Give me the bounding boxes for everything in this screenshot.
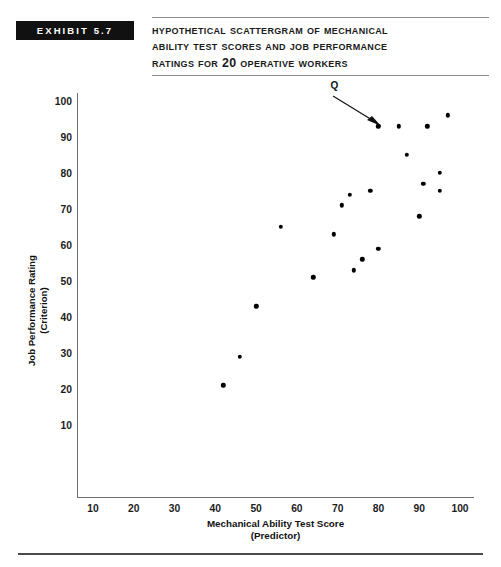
data-point: [417, 214, 421, 218]
footer-rule: [18, 553, 483, 555]
data-point: [331, 232, 335, 236]
x-tick-label: 70: [321, 503, 355, 514]
data-point: [352, 268, 356, 272]
x-tick-label: 20: [117, 503, 151, 514]
x-axis-label-sub: (Predictor): [251, 530, 301, 541]
y-axis-label-sub: (Criterion): [38, 287, 49, 333]
x-tick-label: 60: [280, 503, 314, 514]
data-point: [368, 189, 372, 193]
data-point: [254, 304, 258, 308]
x-axis-line: [77, 497, 474, 498]
data-point: [311, 275, 315, 279]
data-point: [437, 189, 441, 193]
x-tick-label: 80: [361, 503, 395, 514]
y-tick-label: 10: [46, 420, 72, 431]
y-tick-label: 80: [46, 168, 72, 179]
data-point: [421, 182, 425, 186]
data-point: [278, 225, 282, 229]
y-tick-label: 20: [46, 384, 72, 395]
y-tick-label: 90: [46, 132, 72, 143]
data-point: [360, 257, 364, 261]
exhibit-page: EXHIBIT 5.7 Hypothetical Scattergram of …: [0, 0, 501, 567]
data-point: [405, 153, 409, 157]
data-point: [425, 124, 429, 128]
x-tick-label: 10: [76, 503, 110, 514]
y-tick-label: 50: [46, 276, 72, 287]
data-point: [376, 246, 380, 250]
y-tick-label: 30: [46, 348, 72, 359]
y-axis-label-main: Job Performance Rating: [26, 255, 37, 366]
data-point: [446, 113, 450, 117]
y-axis-line: [77, 93, 78, 498]
x-axis-label: Mechanical Ability Test Score (Predictor…: [77, 518, 474, 542]
data-point: [238, 354, 242, 358]
y-tick-label: 70: [46, 204, 72, 215]
x-tick-label: 90: [402, 503, 436, 514]
y-tick-label: 100: [46, 96, 72, 107]
data-point: [348, 192, 352, 196]
x-tick-label: 50: [239, 503, 273, 514]
annotation-arrow-icon: [329, 92, 393, 132]
x-axis-label-main: Mechanical Ability Test Score: [207, 518, 344, 529]
scatter-plot: 102030405060708090100 102030405060708090…: [0, 0, 501, 567]
y-axis-label: Job Performance Rating (Criterion): [26, 226, 49, 396]
x-tick-label: 40: [198, 503, 232, 514]
data-point: [437, 171, 441, 175]
data-point: [340, 203, 344, 207]
data-point: [221, 383, 225, 387]
x-tick-label: 100: [443, 503, 477, 514]
data-point: [397, 124, 401, 128]
annotation-label: Q: [330, 80, 338, 91]
y-tick-label: 60: [46, 240, 72, 251]
y-tick-label: 40: [46, 312, 72, 323]
x-tick-label: 30: [158, 503, 192, 514]
